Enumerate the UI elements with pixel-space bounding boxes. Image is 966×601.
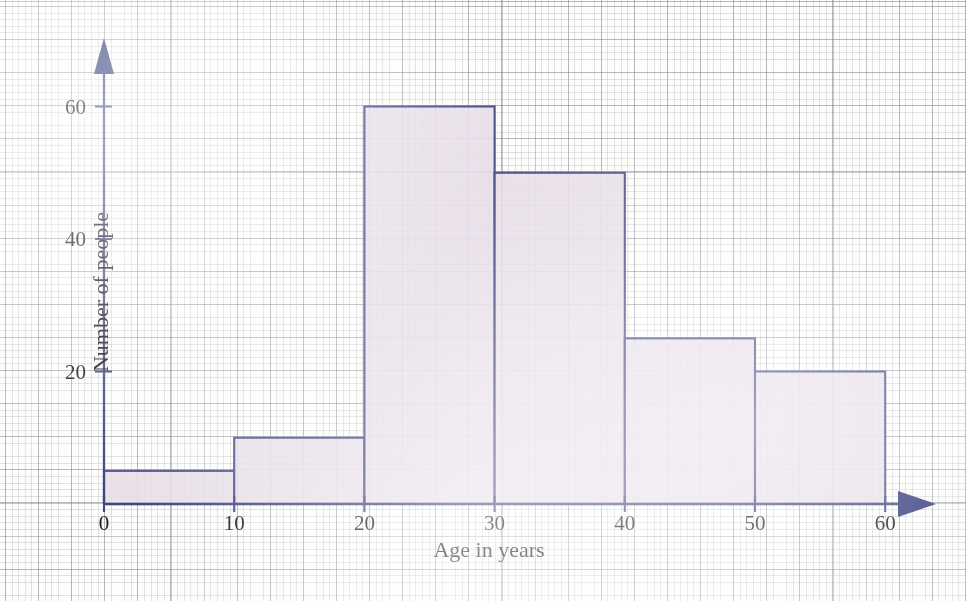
y-axis-tick-label-40: 40 [56,227,86,252]
y-axis-tick-label-60: 60 [56,94,86,119]
x-axis-tick-label-10: 10 [224,511,245,536]
histogram-bar-40-50 [625,338,755,504]
x-axis-tick-label-30: 30 [484,511,505,536]
x-axis-tick-label-60: 60 [875,511,896,536]
histogram-bar-50-60 [755,372,885,505]
y-axis-arrowhead [94,38,114,74]
x-axis-title: Age in years [433,537,544,563]
x-axis-arrowhead [898,491,936,517]
histogram-bars [104,107,885,505]
histogram-bar-0-10 [104,471,234,504]
histogram-bar-20-30 [364,107,494,505]
x-axis-tick-label-20: 20 [354,511,375,536]
x-axis-tick-label-40: 40 [614,511,635,536]
histogram-bar-30-40 [495,173,625,504]
x-axis-tick-label-50: 50 [745,511,766,536]
histogram-bar-10-20 [234,438,364,504]
histogram-plot [0,0,966,601]
y-axis-title: Number of people [88,212,114,372]
histogram-graph-paper: 20 40 60 0 10 20 30 40 50 60 Age in year… [0,0,966,601]
y-axis-tick-label-20: 20 [56,359,86,384]
x-axis-tick-label-0: 0 [99,511,110,536]
